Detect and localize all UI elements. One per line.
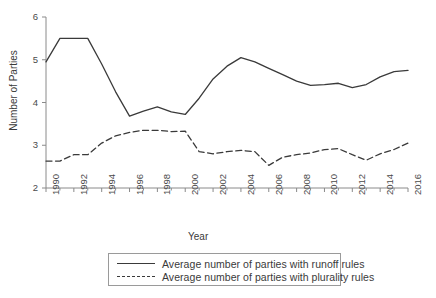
x-tick-label: 2000: [189, 174, 200, 195]
x-tick-label: 2002: [217, 174, 228, 195]
x-tick-label: 2006: [273, 174, 284, 195]
series-line-plurality: [46, 130, 408, 165]
legend-label-plurality: Average number of parties with plurality…: [162, 272, 374, 283]
x-axis-title: Year: [188, 231, 208, 242]
y-tick-label: 4: [24, 97, 38, 108]
y-axis-title: Number of Parties: [8, 42, 19, 140]
legend-line-dashed-icon: [117, 272, 155, 282]
x-tick-label: 2012: [356, 174, 367, 195]
x-tick-label: 1994: [106, 174, 117, 195]
x-tick-label: 1992: [78, 174, 89, 195]
x-tick-label: 2004: [245, 174, 256, 195]
x-tick-label: 2010: [328, 174, 339, 195]
series-line-runoff: [46, 38, 408, 116]
legend-label-runoff: Average number of parties with runoff ru…: [162, 259, 365, 270]
x-tick-label: 1998: [161, 174, 172, 195]
chart-figure: Number of Parties Year 23456199019921994…: [0, 0, 436, 298]
x-tick-label: 2008: [301, 174, 312, 195]
x-tick-label: 1996: [134, 174, 145, 195]
legend-item-plurality: Average number of parties with plurality…: [117, 270, 374, 284]
y-tick-label: 2: [24, 182, 38, 193]
x-tick-label: 2014: [384, 174, 395, 195]
legend-line-solid-icon: [117, 259, 155, 269]
y-tick-label: 3: [24, 139, 38, 150]
chart-legend: Average number of parties with runoff ru…: [108, 253, 341, 286]
x-tick-label: 2016: [412, 174, 423, 195]
y-tick-label: 6: [24, 11, 38, 22]
x-tick-label: 1990: [50, 174, 61, 195]
series-layer: [46, 38, 408, 165]
axis-layer: [42, 17, 408, 192]
y-tick-label: 5: [24, 54, 38, 65]
legend-item-runoff: Average number of parties with runoff ru…: [117, 257, 365, 271]
